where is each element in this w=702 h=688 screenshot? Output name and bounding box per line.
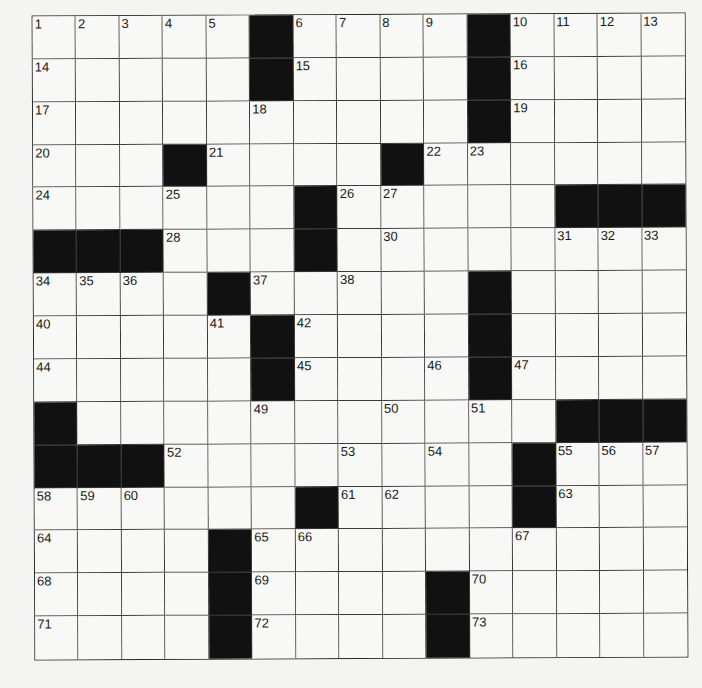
grid-cell[interactable] bbox=[79, 616, 123, 659]
grid-cell[interactable] bbox=[251, 230, 295, 273]
grid-cell[interactable]: 12 bbox=[598, 14, 642, 57]
grid-cell[interactable]: 60 bbox=[122, 487, 166, 530]
grid-cell[interactable] bbox=[252, 487, 296, 530]
grid-cell[interactable]: 63 bbox=[556, 485, 600, 528]
grid-cell[interactable] bbox=[643, 485, 687, 528]
grid-cell[interactable]: 26 bbox=[338, 186, 382, 229]
grid-cell[interactable]: 24 bbox=[33, 188, 77, 231]
grid-cell[interactable] bbox=[251, 187, 295, 230]
grid-cell[interactable] bbox=[295, 272, 339, 315]
grid-cell[interactable]: 61 bbox=[339, 486, 383, 529]
grid-cell[interactable] bbox=[120, 187, 164, 230]
grid-cell[interactable] bbox=[644, 614, 688, 657]
grid-cell[interactable] bbox=[381, 100, 425, 143]
grid-cell[interactable]: 19 bbox=[511, 100, 555, 143]
grid-cell[interactable]: 3 bbox=[120, 16, 164, 59]
grid-cell[interactable]: 56 bbox=[600, 442, 644, 485]
grid-cell[interactable] bbox=[468, 229, 512, 272]
grid-cell[interactable] bbox=[600, 614, 644, 657]
grid-cell[interactable] bbox=[642, 314, 686, 357]
grid-cell[interactable]: 36 bbox=[121, 273, 165, 316]
grid-cell[interactable] bbox=[76, 59, 120, 102]
grid-cell[interactable] bbox=[643, 356, 687, 399]
grid-cell[interactable]: 58 bbox=[35, 488, 79, 531]
grid-cell[interactable] bbox=[555, 271, 599, 314]
grid-cell[interactable] bbox=[641, 99, 685, 142]
grid-cell[interactable] bbox=[121, 316, 165, 359]
grid-cell[interactable] bbox=[381, 272, 425, 315]
grid-cell[interactable] bbox=[337, 144, 381, 187]
grid-cell[interactable] bbox=[296, 615, 340, 658]
grid-cell[interactable]: 51 bbox=[469, 400, 513, 443]
grid-cell[interactable] bbox=[381, 58, 425, 101]
grid-cell[interactable] bbox=[121, 359, 165, 402]
grid-cell[interactable] bbox=[122, 573, 166, 616]
grid-cell[interactable] bbox=[555, 143, 599, 186]
grid-cell[interactable] bbox=[339, 401, 383, 444]
grid-cell[interactable]: 46 bbox=[425, 357, 469, 400]
grid-cell[interactable]: 7 bbox=[337, 15, 381, 58]
grid-cell[interactable]: 28 bbox=[164, 230, 208, 273]
grid-cell[interactable] bbox=[77, 187, 121, 230]
grid-cell[interactable] bbox=[208, 401, 252, 444]
grid-cell[interactable] bbox=[598, 142, 642, 185]
grid-cell[interactable]: 49 bbox=[252, 401, 296, 444]
grid-cell[interactable]: 10 bbox=[511, 14, 555, 57]
grid-cell[interactable] bbox=[339, 529, 383, 572]
grid-cell[interactable]: 52 bbox=[165, 444, 209, 487]
grid-cell[interactable] bbox=[557, 614, 601, 657]
grid-cell[interactable] bbox=[512, 228, 556, 271]
grid-cell[interactable] bbox=[644, 571, 688, 614]
grid-cell[interactable]: 71 bbox=[35, 616, 79, 659]
grid-cell[interactable]: 23 bbox=[468, 143, 512, 186]
grid-cell[interactable] bbox=[598, 99, 642, 142]
grid-cell[interactable] bbox=[339, 572, 383, 615]
grid-cell[interactable] bbox=[382, 443, 426, 486]
grid-cell[interactable]: 14 bbox=[33, 59, 77, 102]
grid-cell[interactable]: 41 bbox=[208, 316, 252, 359]
grid-cell[interactable]: 65 bbox=[252, 530, 296, 573]
grid-cell[interactable]: 17 bbox=[33, 102, 77, 145]
grid-cell[interactable] bbox=[337, 101, 381, 144]
grid-cell[interactable]: 66 bbox=[296, 529, 340, 572]
grid-cell[interactable]: 42 bbox=[295, 315, 339, 358]
grid-cell[interactable] bbox=[165, 487, 209, 530]
grid-cell[interactable] bbox=[554, 57, 598, 100]
grid-cell[interactable] bbox=[209, 487, 253, 530]
grid-cell[interactable] bbox=[337, 58, 381, 101]
grid-cell[interactable] bbox=[120, 59, 164, 102]
grid-cell[interactable]: 35 bbox=[77, 273, 121, 316]
grid-cell[interactable] bbox=[383, 615, 427, 658]
grid-cell[interactable] bbox=[513, 614, 557, 657]
grid-cell[interactable] bbox=[165, 401, 209, 444]
grid-cell[interactable]: 45 bbox=[295, 358, 339, 401]
grid-cell[interactable] bbox=[252, 444, 296, 487]
grid-cell[interactable] bbox=[207, 230, 251, 273]
grid-cell[interactable]: 68 bbox=[35, 573, 79, 616]
grid-cell[interactable] bbox=[165, 530, 209, 573]
grid-cell[interactable] bbox=[426, 486, 470, 529]
grid-cell[interactable] bbox=[469, 529, 513, 572]
grid-cell[interactable] bbox=[163, 101, 207, 144]
grid-cell[interactable] bbox=[165, 573, 209, 616]
grid-cell[interactable]: 2 bbox=[76, 16, 120, 59]
grid-cell[interactable]: 64 bbox=[35, 531, 79, 574]
grid-cell[interactable]: 21 bbox=[207, 144, 251, 187]
grid-cell[interactable] bbox=[383, 572, 427, 615]
grid-cell[interactable] bbox=[600, 485, 644, 528]
grid-cell[interactable] bbox=[511, 186, 555, 229]
grid-cell[interactable]: 1 bbox=[33, 16, 77, 59]
grid-cell[interactable]: 16 bbox=[511, 57, 555, 100]
grid-cell[interactable] bbox=[555, 100, 599, 143]
grid-cell[interactable] bbox=[599, 357, 643, 400]
grid-cell[interactable] bbox=[77, 145, 121, 188]
grid-cell[interactable] bbox=[164, 359, 208, 402]
grid-cell[interactable] bbox=[78, 359, 122, 402]
grid-cell[interactable] bbox=[294, 101, 338, 144]
grid-cell[interactable] bbox=[469, 443, 513, 486]
grid-cell[interactable] bbox=[382, 358, 426, 401]
grid-cell[interactable] bbox=[425, 315, 469, 358]
grid-cell[interactable] bbox=[512, 314, 556, 357]
grid-cell[interactable]: 13 bbox=[641, 14, 685, 57]
grid-cell[interactable] bbox=[166, 616, 210, 659]
